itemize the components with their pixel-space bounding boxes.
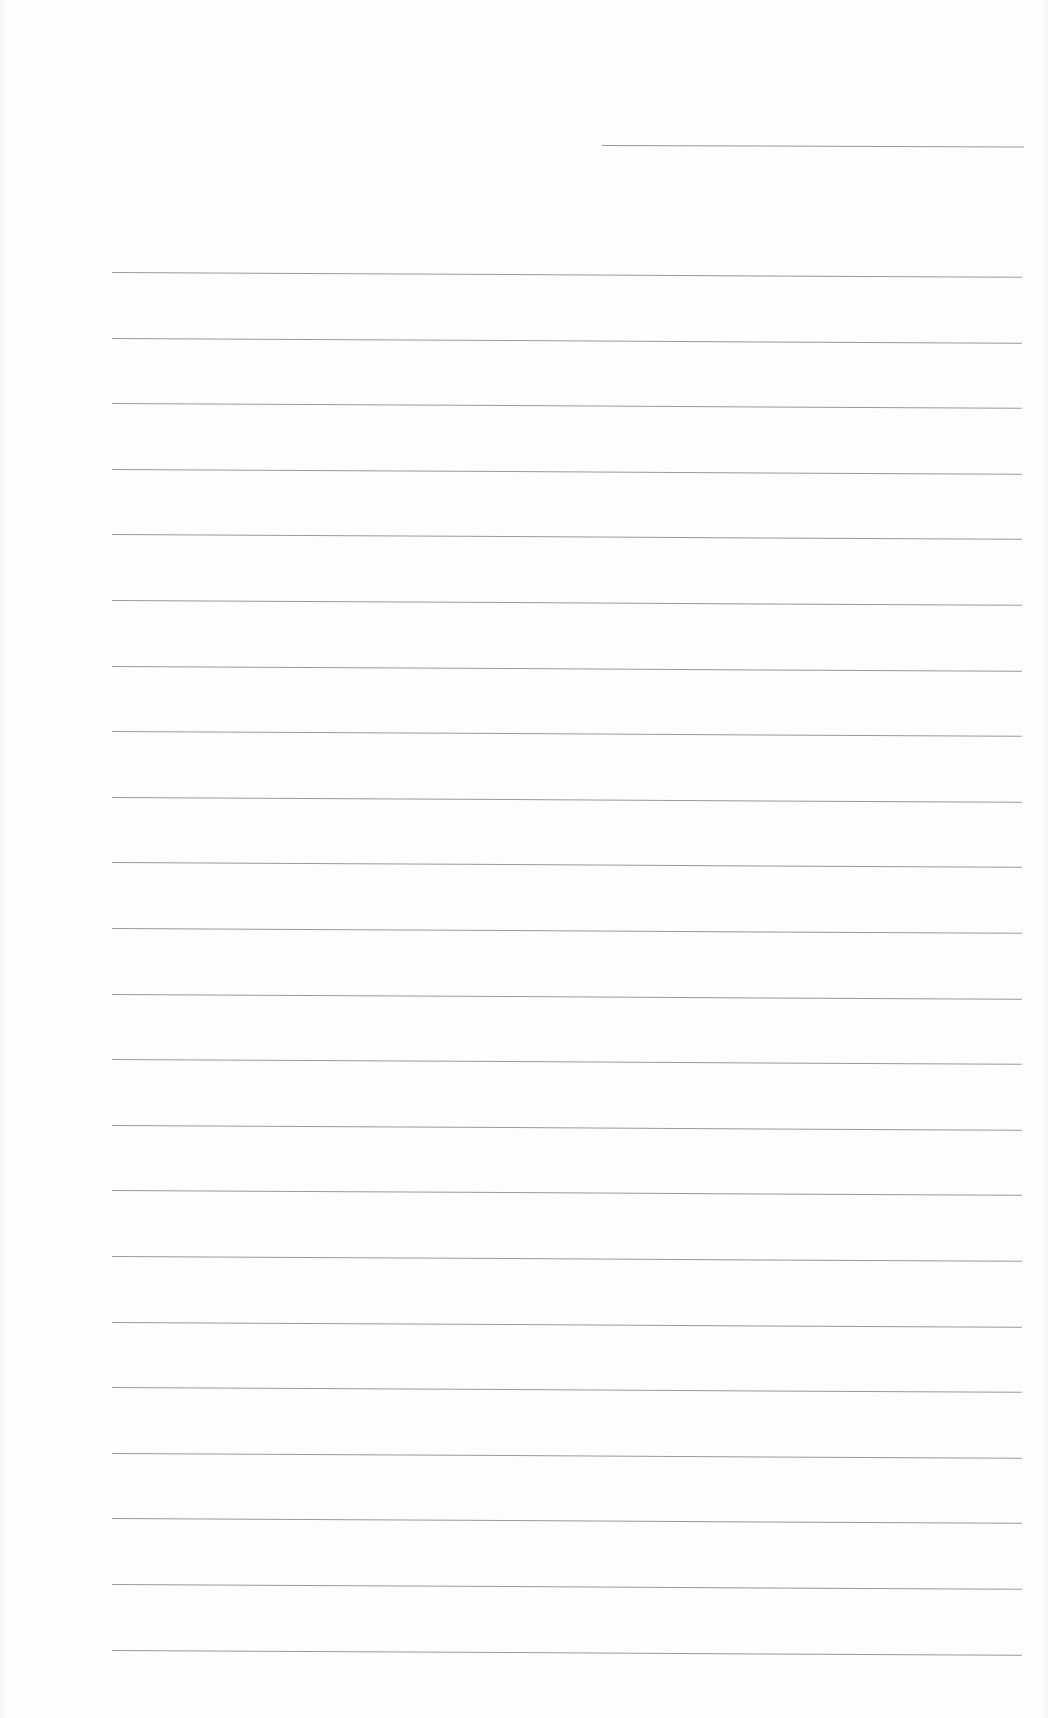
ruled-line bbox=[112, 1387, 1022, 1393]
right-edge-shadow bbox=[1042, 0, 1048, 1718]
left-edge-shadow bbox=[0, 0, 6, 1718]
ruled-line bbox=[112, 666, 1022, 672]
ruled-line bbox=[112, 272, 1022, 278]
ruled-line bbox=[112, 797, 1022, 803]
ruled-line bbox=[112, 1059, 1022, 1065]
ruled-line bbox=[112, 1322, 1022, 1328]
ruled-line bbox=[112, 1190, 1022, 1196]
ruled-line bbox=[112, 1650, 1022, 1656]
date-line bbox=[602, 145, 1024, 147]
ruled-line bbox=[112, 469, 1022, 475]
ruled-line bbox=[112, 862, 1022, 868]
ruled-line bbox=[112, 1518, 1022, 1524]
ruled-line bbox=[112, 403, 1022, 409]
ruled-line bbox=[112, 928, 1022, 934]
ruled-line bbox=[112, 994, 1022, 1000]
ruled-line bbox=[112, 1453, 1022, 1459]
lined-paper-page bbox=[0, 0, 1048, 1718]
ruled-line bbox=[112, 1256, 1022, 1262]
ruled-line bbox=[112, 1125, 1022, 1131]
ruled-line bbox=[112, 731, 1022, 737]
ruled-line bbox=[112, 338, 1022, 344]
ruled-line bbox=[112, 600, 1022, 606]
ruled-line bbox=[112, 534, 1022, 540]
ruled-line bbox=[112, 1584, 1022, 1590]
